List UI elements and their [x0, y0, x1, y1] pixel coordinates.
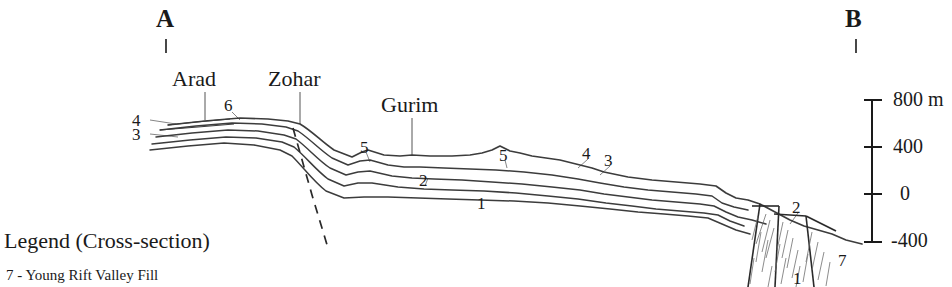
unit-label-4-right: 4: [582, 145, 591, 162]
place-label-zohar: Zohar: [268, 68, 321, 90]
scale-label-800: 800 m: [893, 89, 944, 109]
unit-label-3-right: 3: [604, 152, 613, 169]
unit-label-2-fault: 2: [792, 199, 801, 216]
endpoint-ticks: [166, 39, 856, 53]
fault-plane-3: [806, 216, 814, 287]
horizon-top-5: [160, 123, 748, 210]
legend-item-7: 7 - Young Rift Valley Fill: [6, 268, 158, 283]
scale-label-400: 400: [893, 136, 923, 156]
unit-label-1-middle: 1: [477, 195, 486, 212]
scale-label-minus400: -400: [891, 230, 928, 250]
unit-label-5-east: 5: [499, 147, 508, 164]
scale-label-0: 0: [900, 183, 910, 203]
unit-label-3-left: 3: [132, 126, 141, 143]
fault-zone-hatching: [750, 214, 830, 287]
endpoint-label-a: A: [156, 6, 174, 31]
leader-unit-4-left: [150, 120, 176, 124]
unit-label-6: 6: [224, 97, 233, 114]
legend-title: Legend (Cross-section): [4, 230, 210, 252]
place-label-gurim: Gurim: [381, 94, 438, 116]
unit-leader-lines: [150, 112, 798, 224]
unit-label-2-middle: 2: [419, 172, 428, 189]
elevation-scale-bar: [864, 100, 882, 242]
unit-label-1-fault: 1: [793, 270, 802, 287]
stratigraphic-horizons: [150, 118, 862, 244]
unit-label-5-west: 5: [360, 139, 369, 156]
endpoint-label-b: B: [845, 6, 862, 31]
place-label-arad: Arad: [172, 68, 216, 90]
offset-bed-3: [806, 216, 836, 231]
cross-section-figure: A B Arad Zohar Gurim 4 3 6 5 5 4 3 2 1 2…: [0, 0, 952, 287]
unit-label-7-fault: 7: [838, 252, 847, 269]
horizon-surface: [168, 118, 862, 244]
fault-plane-2: [775, 206, 779, 287]
